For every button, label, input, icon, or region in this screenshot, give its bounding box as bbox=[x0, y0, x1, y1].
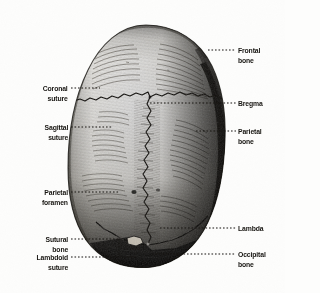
label-coronal-suture: Coronalsuture bbox=[43, 84, 68, 103]
label-lambdoid-suture: Lambdoidsuture bbox=[36, 253, 68, 272]
label-occipital-bone-line1: Occipital bbox=[238, 250, 266, 260]
label-frontal-bone: Frontalbone bbox=[238, 46, 260, 65]
label-coronal-suture-line1: Coronal bbox=[43, 84, 68, 94]
label-lambdoid-suture-line2: suture bbox=[36, 263, 68, 273]
label-parietal-bone-line2: bone bbox=[238, 137, 262, 147]
label-parietal-foramen-line2: foramen bbox=[42, 198, 68, 208]
label-sutural-bone: Suturalbone bbox=[45, 235, 68, 254]
label-bregma-line1: Bregma bbox=[238, 99, 263, 109]
label-lambda-line1: Lambda bbox=[238, 224, 263, 234]
label-parietal-bone: Parietalbone bbox=[238, 127, 262, 146]
label-occipital-bone-line2: bone bbox=[238, 260, 266, 270]
label-frontal-bone-line1: Frontal bbox=[238, 46, 260, 56]
label-parietal-foramen-line1: Parietal bbox=[42, 188, 68, 198]
label-parietal-bone-line1: Parietal bbox=[238, 127, 262, 137]
label-sutural-bone-line1: Sutural bbox=[45, 235, 68, 245]
label-sagittal-suture-line1: Sagittal bbox=[44, 123, 68, 133]
label-frontal-bone-line2: bone bbox=[238, 56, 260, 66]
label-lambdoid-suture-line1: Lambdoid bbox=[36, 253, 68, 263]
label-lambda: Lambda bbox=[238, 224, 263, 234]
label-sagittal-suture: Sagittalsuture bbox=[44, 123, 68, 142]
label-coronal-suture-line2: suture bbox=[43, 94, 68, 104]
label-bregma: Bregma bbox=[238, 99, 263, 109]
label-occipital-bone: Occipitalbone bbox=[238, 250, 266, 269]
label-sagittal-suture-line2: suture bbox=[44, 133, 68, 143]
label-parietal-foramen: Parietalforamen bbox=[42, 188, 68, 207]
